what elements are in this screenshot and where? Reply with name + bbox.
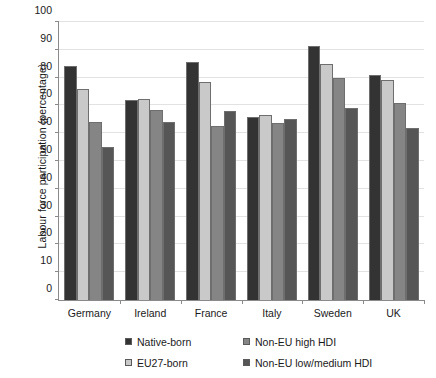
chart-legend: Native-bornNon-EU high HDIEU27-bornNon-E… [125,331,425,373]
bar [394,103,407,300]
bar [259,115,272,300]
x-axis-label: France [195,307,228,319]
bar [369,75,382,300]
bar [211,126,224,300]
bar [138,99,151,300]
x-axis-label: Sweden [314,307,352,319]
bars-layer [59,22,424,300]
bar [381,80,394,300]
y-tick-label: 0 [46,282,52,294]
legend-swatch-icon [125,359,132,366]
bar [77,89,90,300]
x-tick-mark [424,300,425,304]
x-axis-label: Italy [262,307,281,319]
x-axis-label: UK [386,307,401,319]
bar-chart: Labour force participation (percentage) … [0,0,436,378]
bar [320,64,333,300]
x-tick-mark [302,300,303,304]
legend-label: Native-born [137,336,191,348]
x-tick-mark [242,300,243,304]
bar [272,123,285,300]
bar [163,122,176,300]
y-tick-label: 30 [40,199,52,211]
legend-label: Non-EU high HDI [255,336,336,348]
bar [199,82,212,300]
y-tick-label: 40 [40,171,52,183]
bar [186,62,199,300]
x-tick-mark [363,300,364,304]
y-tick-label: 60 [40,115,52,127]
x-axis-label: Ireland [134,307,166,319]
bar [406,128,419,300]
bar [89,122,102,300]
legend-label: Non-EU low/medium HDI [255,357,372,369]
legend-label: EU27-born [137,357,188,369]
bar [102,147,115,300]
x-tick-mark [120,300,121,304]
bar [247,117,260,300]
y-tick-label: 100 [34,4,52,16]
bar [150,110,163,300]
bar [64,66,77,300]
bar [333,78,346,300]
bar [224,111,237,300]
bar [125,100,138,300]
bar [308,46,321,300]
legend-swatch-icon [125,338,132,345]
x-tick-mark [181,300,182,304]
y-tick-label: 90 [40,32,52,44]
y-axis-title: Labour force participation (percentage) [36,36,48,276]
legend-item: Native-born [125,336,243,348]
y-tick-label: 50 [40,143,52,155]
plot-area: 0102030405060708090100 GermanyIrelandFra… [58,22,424,301]
legend-item: Non-EU high HDI [243,336,425,348]
y-tick-label: 10 [40,254,52,266]
legend-swatch-icon [243,338,250,345]
bar [345,108,358,300]
y-tick-label: 80 [40,60,52,72]
y-tick-label: 20 [40,226,52,238]
x-axis-label: Germany [68,307,111,319]
legend-item: Non-EU low/medium HDI [243,357,425,369]
bar [284,119,297,300]
legend-item: EU27-born [125,357,243,369]
legend-swatch-icon [243,359,250,366]
y-tick-label: 70 [40,87,52,99]
